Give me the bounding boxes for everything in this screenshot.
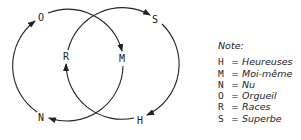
legend-entry: S=Superbe [218,113,293,124]
legend-key: H [218,56,228,67]
legend-key: S [218,113,228,124]
legend-key: M [218,68,228,79]
edge-h-to-r [66,64,134,119]
legend-equals: = [228,68,242,79]
legend-value: Nu [242,79,255,90]
legend-value: Races [242,101,270,112]
node-s: S [152,14,158,25]
edge-s-to-h [147,24,179,115]
node-m: M [119,53,125,64]
legend-key: N [218,79,228,90]
legend-value: Orgueil [242,90,277,101]
legend-equals: = [228,113,242,124]
edge-o-to-m [48,9,122,51]
legend-entry: R=Races [218,101,293,112]
node-r: R [63,51,70,62]
edge-m-to-n [49,66,123,121]
node-h: H [137,115,143,126]
legend-entry: M=Moi-même [218,68,293,79]
legend-entry: H=Heureuses [218,56,293,67]
legend-equals: = [228,56,242,67]
legend-equals: = [228,79,242,90]
legend-value: Superbe [242,113,282,124]
node-o: O [38,12,44,23]
legend-entry: N=Nu [218,79,293,90]
legend-equals: = [228,101,242,112]
legend-value: Heureuses [242,56,293,67]
legend-key: R [218,101,228,112]
note-title: Note: [218,40,293,51]
legend-entry: O=Orgueil [218,90,293,101]
legend-equals: = [228,90,242,101]
legend-value: Moi-même [242,68,292,79]
edge-n-to-o [13,21,37,112]
node-n: N [38,112,44,123]
legend-key: O [218,90,228,101]
edge-r-to-s [68,8,150,50]
legend-note: Note: H=Heureuses M=Moi-même N=Nu O=Orgu… [218,40,293,124]
